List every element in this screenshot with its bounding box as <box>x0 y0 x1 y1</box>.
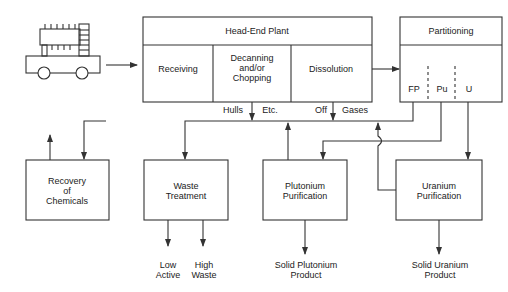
output-low-active-line2: Active <box>156 270 181 280</box>
partitioning-title: Partitioning <box>428 26 473 36</box>
output-uranium-line1: Solid Uranium <box>412 260 469 270</box>
output-high-waste-line1: High <box>195 260 214 270</box>
output-plutonium-line2: Product <box>290 270 321 280</box>
stage-receiving: Receiving <box>158 64 198 74</box>
output-low-active-line1: Low <box>160 260 177 270</box>
recovery-line1: Recovery <box>48 176 86 186</box>
label-off: Off <box>315 105 327 115</box>
stream-pu: Pu <box>436 84 447 94</box>
fuel-transport-truck-icon <box>26 24 100 79</box>
recovery-line3: Chemicals <box>46 196 88 206</box>
label-gases: Gases <box>342 105 368 115</box>
stream-fp: FP <box>408 84 420 94</box>
label-hulls: Hulls <box>223 105 243 115</box>
flow-diagram <box>0 0 508 292</box>
stage-decanning-line1: Decanning <box>230 53 273 63</box>
waste-line1: Waste <box>173 181 198 191</box>
plutonium-line2: Purification <box>283 191 328 201</box>
stage-dissolution: Dissolution <box>309 64 353 74</box>
uranium-line1: Uranium <box>422 181 456 191</box>
uranium-line2: Purification <box>417 191 462 201</box>
output-plutonium-line1: Solid Plutonium <box>275 260 338 270</box>
plutonium-line1: Plutonium <box>285 181 325 191</box>
recovery-line2: of <box>63 186 71 196</box>
output-high-waste-line2: Waste <box>191 270 216 280</box>
head-end-plant-title: Head-End Plant <box>225 26 289 36</box>
output-uranium-line2: Product <box>424 270 455 280</box>
stage-decanning-line3: Chopping <box>233 73 272 83</box>
stage-decanning-line2: and/or <box>239 63 265 73</box>
stream-u: U <box>466 84 473 94</box>
waste-line2: Treatment <box>166 191 207 201</box>
label-etc: Etc. <box>262 105 278 115</box>
